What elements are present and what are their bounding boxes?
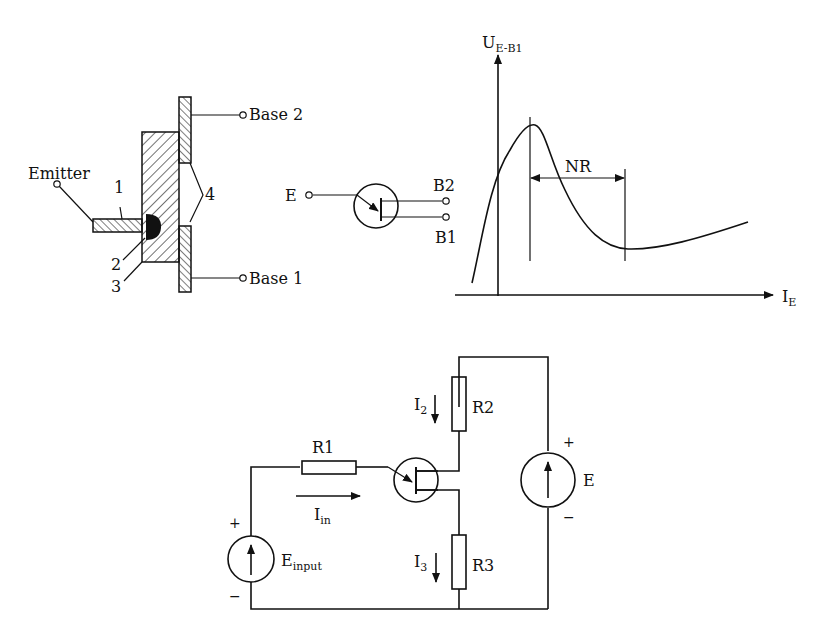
einput-label: Einput [281,551,322,573]
part-1-label: 1 [114,178,124,197]
base2-contact [179,97,191,163]
e-supply-label: E [583,471,595,490]
base1-terminal [240,275,246,281]
ujt-symbol-circle [354,184,398,228]
ujt-symbol-diagram: E B2 B1 [285,176,457,247]
iin-label: Iin [314,505,331,527]
y-axis-label: UE-B1 [482,33,523,55]
b1-terminal [443,214,449,220]
semiconductor-bar [142,132,179,262]
e-plus-sign: + [563,434,575,450]
nr-label: NR [565,157,592,176]
symbol-b1-label: B1 [435,228,457,247]
r3-label: R3 [472,556,494,575]
e-minus-sign: − [563,509,575,525]
resistor-r3 [452,535,466,589]
base1-label: Base 1 [249,269,303,288]
x-axis-label: IE [782,287,796,309]
emitter-rod [93,219,142,232]
e-terminal [306,192,312,198]
ujt-structure-diagram: Emitter Base 2 Base 1 1 2 3 4 [28,97,303,296]
i3-label: I3 [414,552,427,574]
characteristic-curve-chart: UE-B1 IE NR [455,33,796,309]
base2-label: Base 2 [249,105,303,124]
part-3-label: 3 [111,277,121,296]
part-4-label: 4 [205,185,215,204]
symbol-b2-label: B2 [433,176,455,195]
ujt-circuit-diagram: R1 R2 R3 I2 I3 Iin Einput E + − + − [228,357,595,609]
resistor-r1 [302,461,356,474]
i2-label: I2 [414,395,427,417]
symbol-e-label: E [285,186,297,205]
base2-terminal [240,112,246,118]
diagram-canvas: Emitter Base 2 Base 1 1 2 3 4 E B2 B1 UE… [0,0,831,644]
emitter-label: Emitter [28,164,90,183]
base1-contact [179,226,191,292]
r1-label: R1 [312,438,334,457]
r2-label: R2 [472,398,494,417]
characteristic-curve [472,125,748,283]
einput-minus-sign: − [229,588,241,604]
part-2-label: 2 [111,255,121,274]
b2-terminal [443,198,449,204]
einput-plus-sign: + [229,515,241,531]
